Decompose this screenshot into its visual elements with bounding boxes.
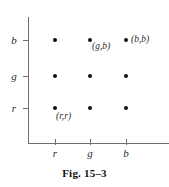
point-annotation-gb: (g,b) [92,42,110,52]
y-axis-label-r: r [8,103,20,114]
data-point [88,74,92,78]
data-point [53,74,57,78]
y-axis-label-g: g [8,71,20,82]
figure-container: b g r r g b (g,b) (b,b) (r,r) Fig. 15–3 [0,0,169,187]
y-axis-tick-g [23,76,29,77]
x-axis-label-b: b [119,148,133,159]
data-point [53,38,57,42]
y-axis-tick-r [23,108,29,109]
x-axis-label-g: g [83,148,97,159]
data-point [124,106,128,110]
x-axis-tick-g [90,139,91,145]
data-point [124,38,128,42]
data-point [124,74,128,78]
x-axis-tick-r [55,139,56,145]
point-annotation-rr: (r,r) [56,112,71,122]
data-point [88,106,92,110]
y-axis-label-b: b [8,35,20,46]
y-axis-tick-b [23,40,29,41]
point-annotation-bb: (b,b) [131,35,149,45]
y-axis-line [28,17,29,144]
data-point [53,106,57,110]
x-axis-line [28,143,169,144]
figure-caption: Fig. 15–3 [0,167,169,179]
x-axis-label-r: r [48,148,62,159]
x-axis-tick-b [126,139,127,145]
